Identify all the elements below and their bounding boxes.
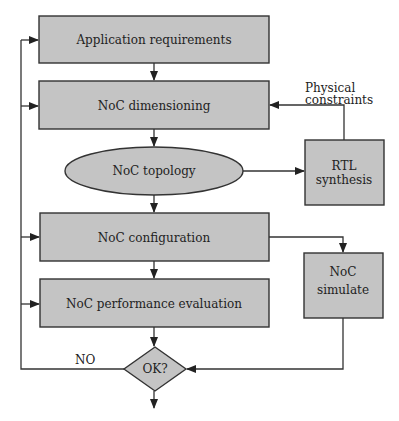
- node-label: NoC dimensioning: [98, 99, 211, 113]
- decision-label: OK?: [142, 362, 167, 376]
- node-label: NoC configuration: [98, 231, 211, 245]
- arrow-rtl-to-dimensioning: [270, 105, 344, 140]
- node-label-line1: NoC: [330, 265, 357, 279]
- node-label-line2: synthesis: [316, 173, 372, 187]
- node-rtl-synthesis: RTL synthesis: [305, 140, 384, 205]
- node-noc-dimensioning: NoC dimensioning: [39, 81, 269, 129]
- node-label: NoC topology: [112, 164, 195, 178]
- node-noc-topology: NoC topology: [65, 147, 243, 195]
- flowchart: Application requirements NoC dimensionin…: [0, 0, 399, 421]
- node-label: Application requirements: [75, 33, 231, 47]
- node-label-line2: simulate: [317, 283, 369, 297]
- node-noc-configuration: NoC configuration: [40, 213, 269, 261]
- node-label-line1: RTL: [332, 159, 357, 173]
- no-label: NO: [75, 353, 96, 367]
- node-noc-performance: NoC performance evaluation: [40, 279, 269, 327]
- physical-constraints-label-line2: constraints: [305, 93, 373, 107]
- node-label: NoC performance evaluation: [66, 297, 242, 311]
- node-app-requirements: Application requirements: [39, 16, 269, 63]
- arrow-configuration-to-simulate: [269, 237, 343, 252]
- node-decision: OK?: [124, 347, 186, 391]
- node-noc-simulate: NoC simulate: [304, 253, 383, 318]
